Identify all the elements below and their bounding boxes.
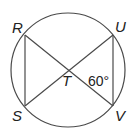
circle-diagram: R U S V T 60° xyxy=(0,0,132,131)
point-label-t: T xyxy=(62,72,73,89)
angle-label: 60° xyxy=(88,73,109,89)
point-label-u: U xyxy=(115,18,126,35)
point-label-v: V xyxy=(115,107,127,124)
point-label-r: R xyxy=(12,19,23,36)
point-label-s: S xyxy=(12,107,22,124)
